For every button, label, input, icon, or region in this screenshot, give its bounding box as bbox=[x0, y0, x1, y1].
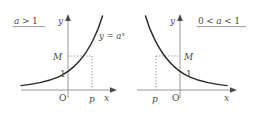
left-curve-label: y = ax bbox=[98, 30, 125, 41]
right-y-tick-M: M bbox=[183, 52, 194, 62]
left-x-axis bbox=[21, 87, 117, 93]
right-cond-upper: 1 bbox=[234, 16, 240, 26]
right-y-tick-one: 1 bbox=[186, 69, 192, 79]
left-curve-label-text: y = a bbox=[98, 31, 121, 41]
svg-text:0<a<1: 0<a<1 bbox=[198, 16, 240, 26]
right-x-axis-label: x bbox=[224, 93, 229, 103]
panel-left: a>1 x y O M 1 p y = ax bbox=[13, 14, 125, 104]
right-y-axis-label: y bbox=[169, 16, 176, 26]
left-x-tick-p: p bbox=[89, 94, 95, 104]
right-x-tick-p: p bbox=[152, 94, 158, 104]
right-cond-lower: 0 bbox=[198, 16, 204, 26]
figure-canvas: a>1 x y O M 1 p y = ax bbox=[0, 0, 256, 114]
left-origin-label: O bbox=[59, 93, 66, 103]
right-condition-label: 0<a<1 bbox=[197, 16, 246, 27]
left-y-tick-M: M bbox=[52, 52, 63, 62]
right-cond-rel1: < bbox=[206, 16, 214, 26]
left-y-axis-label: y bbox=[57, 16, 64, 26]
left-cond-value: 1 bbox=[32, 16, 38, 26]
left-cond-relation: > bbox=[22, 16, 30, 26]
left-y-tick-one: 1 bbox=[60, 69, 66, 79]
exponential-function-figure: a>1 x y O M 1 p y = ax bbox=[0, 0, 256, 114]
panel-right: 0<a<1 x y O M 1 p bbox=[137, 14, 246, 104]
right-cond-rel2: < bbox=[224, 16, 232, 26]
right-cond-base: a bbox=[216, 16, 221, 26]
right-x-axis bbox=[137, 87, 237, 93]
svg-text:a>1: a>1 bbox=[14, 16, 38, 26]
left-x-axis-label: x bbox=[104, 93, 109, 103]
left-cond-base: a bbox=[14, 16, 19, 26]
right-origin-label: O bbox=[172, 93, 179, 103]
left-condition-label: a>1 bbox=[13, 16, 45, 27]
left-curve-label-exponent: x bbox=[121, 30, 125, 37]
